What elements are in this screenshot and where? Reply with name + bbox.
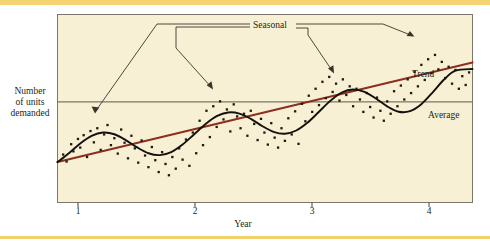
- scatter-point: [147, 166, 149, 168]
- scatter-point: [441, 61, 443, 63]
- scatter-point: [250, 110, 252, 112]
- scatter-point: [205, 110, 207, 112]
- scatter-point: [287, 117, 289, 119]
- scatter-point: [338, 99, 340, 101]
- scatter-point: [236, 115, 238, 117]
- y-axis-title: Number of units demanded: [4, 86, 56, 119]
- seasonal-annotation-label: Seasonal: [253, 20, 287, 30]
- y-axis-title-line-2: of units: [4, 97, 56, 108]
- scatter-point: [447, 66, 449, 68]
- scatter-point: [451, 83, 453, 85]
- x-tick-label-1: 1: [69, 206, 87, 216]
- scatter-point: [291, 133, 293, 135]
- scatter-point: [304, 120, 306, 122]
- x-tick-label-2: 2: [186, 206, 204, 216]
- scatter-point: [144, 154, 146, 156]
- scatter-point: [311, 111, 313, 113]
- scatter-point: [154, 159, 156, 161]
- scatter-point: [386, 100, 388, 102]
- scatter-point: [284, 140, 286, 142]
- scatter-point: [267, 143, 269, 145]
- scatter-point: [246, 135, 248, 137]
- scatter-point: [110, 144, 112, 146]
- scatter-point: [216, 126, 218, 128]
- scatter-point: [127, 157, 129, 159]
- scatter-point: [239, 127, 241, 129]
- scatter-point: [253, 123, 255, 125]
- scatter-point: [229, 130, 231, 132]
- scatter-point: [140, 139, 142, 141]
- scatter-point: [274, 136, 276, 138]
- scatter-point: [314, 88, 316, 90]
- scatter-point: [168, 174, 170, 176]
- figure-container: Number of units demanded Year 1 2 3 4 Se…: [0, 0, 490, 244]
- scatter-point: [407, 78, 409, 80]
- scatter-point: [342, 78, 344, 80]
- scatter-point: [65, 160, 67, 162]
- average-annotation-label: Average: [428, 110, 459, 120]
- scatter-point: [123, 142, 125, 144]
- scatter-point: [369, 106, 371, 108]
- scatter-point: [400, 84, 402, 86]
- scatter-point: [79, 146, 81, 148]
- scatter-point: [437, 68, 439, 70]
- scatter-point: [372, 116, 374, 118]
- scatter-point: [427, 58, 429, 60]
- scatter-point: [403, 98, 405, 100]
- scatter-point: [77, 138, 79, 140]
- scatter-point: [345, 94, 347, 96]
- trend-annotation-label: Trend: [412, 69, 434, 79]
- scatter-point: [96, 127, 98, 129]
- scatter-point: [219, 100, 221, 102]
- scatter-point: [280, 127, 282, 129]
- scatter-point: [86, 156, 88, 158]
- scatter-point: [62, 153, 64, 155]
- scatter-point: [188, 165, 190, 167]
- y-axis-title-line-3: demanded: [4, 108, 56, 119]
- scatter-point: [181, 158, 183, 160]
- scatter-point: [209, 136, 211, 138]
- scatter-point: [70, 143, 72, 145]
- scatter-point: [420, 64, 422, 66]
- scatter-point: [410, 92, 412, 94]
- x-axis-ticks: [78, 203, 429, 208]
- scatter-point: [301, 103, 303, 105]
- scatter-point: [103, 133, 105, 135]
- scatter-point: [383, 120, 385, 122]
- scatter-point: [379, 110, 381, 112]
- scatter-point: [195, 152, 197, 154]
- scatter-point: [256, 139, 258, 141]
- scatter-point: [233, 103, 235, 105]
- scatter-point: [151, 146, 153, 148]
- scatter-point: [461, 75, 463, 77]
- scatter-point: [318, 104, 320, 106]
- scatter-point: [158, 171, 160, 173]
- scatter-point: [321, 81, 323, 83]
- scatter-point: [263, 131, 265, 133]
- scatter-point: [83, 134, 85, 136]
- scatter-point: [113, 137, 115, 139]
- scatter-point: [332, 91, 334, 93]
- scatter-point: [130, 135, 132, 137]
- scatter-point: [389, 113, 391, 115]
- scatter-point: [202, 144, 204, 146]
- scatter-point: [93, 141, 95, 143]
- scatter-point: [171, 156, 173, 158]
- scatter-point: [424, 79, 426, 81]
- scatter-point: [465, 84, 467, 86]
- scatter-point: [308, 95, 310, 97]
- x-tick-label-3: 3: [303, 206, 321, 216]
- scatter-point: [89, 130, 91, 132]
- scatter-point: [352, 105, 354, 107]
- scatter-point: [198, 120, 200, 122]
- scatter-point: [417, 85, 419, 87]
- scatter-point: [212, 105, 214, 107]
- scatter-point: [106, 124, 108, 126]
- scatter-point: [270, 122, 272, 124]
- x-axis-title: Year: [213, 219, 273, 230]
- scatter-point: [468, 71, 470, 73]
- scatter-point: [297, 143, 299, 145]
- plot-area-panel: [58, 15, 473, 203]
- scatter-point: [277, 146, 279, 148]
- scatter-point: [222, 118, 224, 120]
